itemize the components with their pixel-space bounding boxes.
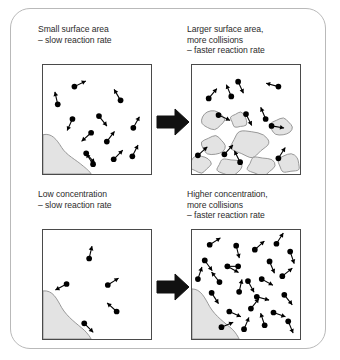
caption-small-surface-area: Small surface area – slow reaction rate [38, 24, 112, 45]
solid-lump-shape [192, 289, 239, 339]
reactant-particle [279, 273, 285, 279]
panel-canvas-top-right [192, 65, 300, 174]
reactant-particle [219, 324, 225, 330]
caption-larger-surface-area: Larger surface area, more collisions – f… [187, 24, 265, 56]
reactant-particle [287, 249, 293, 255]
reactant-particle [216, 112, 222, 118]
reactant-particle [274, 241, 280, 247]
reactant-particle [105, 282, 111, 288]
reactant-particle [269, 123, 275, 129]
reactant-particle [248, 306, 254, 312]
arrow-glyph [157, 274, 189, 300]
reactant-particle [118, 98, 124, 104]
reactant-particle [114, 309, 120, 315]
reactant-particle [235, 263, 241, 269]
reactant-particle [104, 139, 110, 145]
solid-lump-shape [43, 291, 91, 339]
reactant-particle [202, 258, 208, 264]
arrow-glyph [157, 109, 189, 135]
reactant-particle [209, 290, 215, 296]
reactant-particle [130, 125, 136, 131]
reactant-particle [129, 153, 135, 159]
reactant-particle [243, 111, 249, 117]
transition-arrow-top [156, 107, 190, 137]
transition-arrow-bottom [156, 272, 190, 302]
solid-fragment-blob [201, 136, 225, 155]
reactant-particle [55, 101, 61, 107]
reactant-particle [195, 152, 201, 158]
right-arrow-icon [156, 107, 190, 137]
reactant-particle [236, 289, 242, 295]
reactant-particle [241, 326, 247, 332]
reactant-particle [228, 94, 234, 100]
vector-arrowhead [54, 92, 59, 97]
vector-arrowhead [265, 297, 270, 302]
reactant-particle [263, 116, 269, 122]
vector-arrowhead [208, 266, 212, 271]
vector-arrowhead [236, 254, 241, 259]
right-arrow-icon [156, 272, 190, 302]
reactant-particle [206, 96, 212, 102]
reactant-particle [83, 151, 89, 157]
reactant-particle [86, 256, 92, 262]
solid-fragment-blob [278, 154, 299, 173]
vector-arrowhead [89, 246, 94, 251]
higher-concentration-panel [191, 229, 301, 340]
reactant-particle [281, 292, 287, 298]
reactant-particle [222, 152, 228, 158]
reactant-particle [226, 309, 232, 315]
reactant-particle [276, 84, 282, 90]
reactant-particle [262, 322, 268, 328]
reactant-particle [217, 279, 223, 285]
reactant-particle [72, 84, 78, 90]
caption-higher-concentration: Higher concentration, more collisions – … [187, 189, 268, 221]
solid-fragment-blob [201, 111, 224, 130]
reactant-particle [207, 242, 213, 248]
reactant-particle [271, 310, 277, 316]
reaction-rate-diagram: Small surface area – slow reaction rate … [0, 0, 340, 360]
reactant-particle [285, 318, 291, 324]
vector-arrowhead [239, 279, 244, 284]
reactant-particle [267, 259, 273, 265]
reactant-particle [195, 276, 201, 282]
panel-canvas-bottom-right [192, 230, 300, 339]
reactant-particle [235, 79, 241, 85]
reactant-particle [276, 155, 282, 161]
reactant-particle [81, 320, 87, 326]
reactant-particle [88, 130, 94, 136]
vector-arrowhead [266, 82, 271, 87]
low-concentration-panel [42, 229, 152, 340]
reactant-particle [252, 247, 258, 253]
reactant-particle [237, 159, 243, 165]
reactant-particle [70, 116, 76, 122]
small-surface-area-panel [42, 64, 152, 175]
reactant-particle [111, 156, 117, 162]
larger-surface-area-panel [191, 64, 301, 175]
blob-layer-top-right [192, 111, 299, 174]
panel-canvas-top-left [43, 65, 151, 174]
reactant-particle [64, 281, 70, 287]
reactant-particle [96, 113, 102, 119]
reactant-particle [233, 243, 239, 249]
reactant-particle [245, 278, 251, 284]
reactant-particle [259, 276, 265, 282]
solid-fragment-blob [192, 156, 211, 173]
caption-low-concentration: Low concentration – slow reaction rate [38, 189, 112, 210]
solid-fragment-blob [247, 157, 275, 174]
panel-canvas-bottom-left [43, 230, 151, 339]
